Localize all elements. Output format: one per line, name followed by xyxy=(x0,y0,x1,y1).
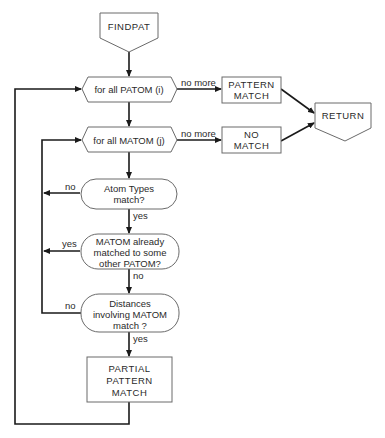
findpat-label: FINDPAT xyxy=(108,21,151,32)
label-distances-no: no xyxy=(65,300,76,311)
node-distances-decision: Distances involving MATOM match ? xyxy=(81,294,179,332)
matom-already-line-2: matched to some xyxy=(94,247,167,258)
node-partial-pattern-match: PARTIAL PATTERN MATCH xyxy=(87,357,172,402)
partial-line-2: PATTERN xyxy=(106,375,152,386)
node-patom-loop: for all PATOM (i) xyxy=(82,77,177,102)
atom-types-line-1: Atom Types xyxy=(104,183,154,194)
label-matom-no-more: no more xyxy=(181,128,216,139)
label-distances-yes: yes xyxy=(133,333,148,344)
label-atom-types-yes: yes xyxy=(133,210,148,221)
node-atom-types-decision: Atom Types match? xyxy=(81,179,177,209)
label-matom-already-no: no xyxy=(133,270,144,281)
return-label: RETURN xyxy=(322,110,365,121)
matom-already-line-1: MATOM already xyxy=(96,236,165,247)
flowchart: FINDPAT for all PATOM (i) for all MATOM … xyxy=(0,0,385,438)
distances-line-1: Distances xyxy=(109,298,151,309)
no-match-line-2: MATCH xyxy=(234,140,270,151)
node-return: RETURN xyxy=(315,103,371,141)
patom-loop-label: for all PATOM (i) xyxy=(94,84,163,95)
distances-line-2: involving MATOM xyxy=(93,309,167,320)
inner-loop-to-matom xyxy=(42,140,81,313)
edge-no-match-to-return xyxy=(281,123,314,141)
edge-pattern-match-to-return xyxy=(281,89,314,113)
matom-already-line-3: other PATOM? xyxy=(99,258,161,269)
node-no-match: NO MATCH xyxy=(222,127,281,153)
no-match-line-1: NO xyxy=(244,129,259,140)
distances-line-3: match ? xyxy=(113,320,147,331)
matom-loop-label: for all MATOM (j) xyxy=(93,135,164,146)
node-findpat: FINDPAT xyxy=(100,13,158,52)
node-matom-already-decision: MATOM already matched to some other PATO… xyxy=(81,234,179,269)
partial-line-1: PARTIAL xyxy=(108,363,150,374)
label-matom-already-yes: yes xyxy=(62,238,77,249)
node-pattern-match: PATTERN MATCH xyxy=(222,77,281,103)
label-patom-no-more: no more xyxy=(181,77,216,88)
pattern-match-line-2: MATCH xyxy=(234,90,270,101)
partial-line-3: MATCH xyxy=(112,387,148,398)
pattern-match-line-1: PATTERN xyxy=(228,79,274,90)
label-atom-types-no: no xyxy=(65,181,76,192)
atom-types-line-2: match? xyxy=(113,194,144,205)
node-matom-loop: for all MATOM (j) xyxy=(82,127,177,152)
